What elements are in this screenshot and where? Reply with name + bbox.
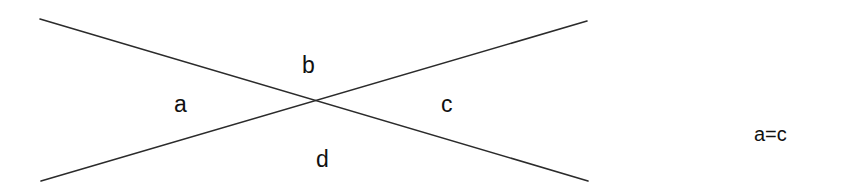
diagram-canvas: a b c d a=c b=d <box>0 0 844 190</box>
angle-label-d: d <box>316 148 329 171</box>
angle-label-c: c <box>441 93 453 116</box>
angle-relations: a=c b=d <box>754 76 788 190</box>
relation-a-equals-c: a=c <box>754 123 788 147</box>
angle-label-b: b <box>302 54 315 77</box>
angle-label-a: a <box>174 93 187 116</box>
intersecting-lines-figure <box>0 0 844 190</box>
